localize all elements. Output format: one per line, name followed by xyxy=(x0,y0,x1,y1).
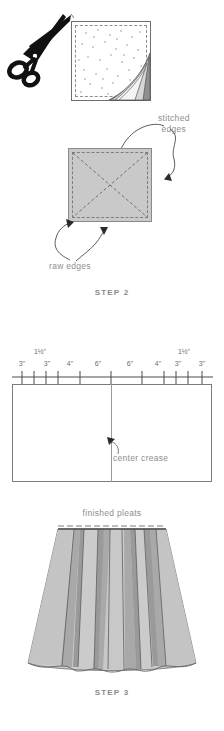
folded-corner-flap xyxy=(103,53,151,101)
fabric-square-stitched xyxy=(68,148,152,222)
x-fold-lines xyxy=(69,149,151,221)
dimension-label-4: 6" xyxy=(88,360,108,367)
dimension-label-8: 3" xyxy=(192,360,212,367)
dimension-label-2: 3" xyxy=(37,360,57,367)
illustration-page: stitched edges raw edges STEP 2 1½" 1½" xyxy=(0,0,224,731)
label-center-crease: center crease xyxy=(113,453,168,464)
dimension-label-7: 3" xyxy=(168,360,188,367)
fabric-square-speckled xyxy=(71,21,151,101)
step-2-label: STEP 2 xyxy=(0,288,224,297)
dimension-label-5: 6" xyxy=(120,360,140,367)
dimension-label-6: 4" xyxy=(148,360,168,367)
label-finished-pleats: finished pleats xyxy=(0,508,224,519)
dimension-label-above-left: 1½" xyxy=(26,348,54,355)
scissors-icon xyxy=(8,12,78,84)
pleated-skirt-illustration xyxy=(18,523,206,675)
dimension-label-1: 3" xyxy=(12,360,32,367)
raw-edges-arrows xyxy=(38,216,126,264)
dimension-label-3: 4" xyxy=(60,360,80,367)
dimension-label-above-right: 1½" xyxy=(170,348,198,355)
step-3-label: STEP 3 xyxy=(0,688,224,697)
